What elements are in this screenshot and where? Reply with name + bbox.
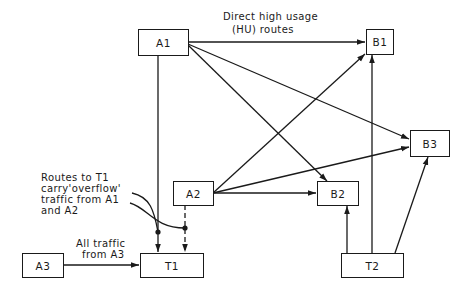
node-b3[interactable]: B3 [410,130,450,157]
node-t2-label: T2 [365,260,379,272]
hu-routes-label-line1: Direct high usage [223,11,318,24]
edge-a1-b2 [188,45,327,181]
junction-dot-a2 [182,225,187,230]
edge-t2-b3 [395,157,428,253]
node-t1[interactable]: T1 [140,253,204,278]
node-a1[interactable]: A1 [138,29,189,56]
hu-routes-label-line2: (HU) routes [232,24,294,37]
node-b1[interactable]: B1 [366,29,394,55]
node-a2[interactable]: A2 [173,181,214,206]
node-b2[interactable]: B2 [317,181,359,206]
edge-a1-b3 [188,44,409,139]
junction-dot-a1 [155,229,160,234]
overflow-label-line4: and A2 [41,205,79,218]
node-b1-label: B1 [373,36,388,48]
node-t1-label: T1 [165,260,179,272]
a3-traffic-label-line2: from A3 [82,249,124,262]
node-a1-label: A1 [156,37,171,49]
edges-layer [0,0,472,294]
node-a3-label: A3 [36,260,51,272]
node-b3-label: B3 [423,138,438,150]
node-b2-label: B2 [331,188,346,200]
node-a3[interactable]: A3 [22,253,64,278]
overflow-curve-a1 [132,193,158,232]
edge-a2-b3 [213,147,409,193]
node-a2-label: A2 [186,188,201,200]
edge-a2-b1 [213,54,365,193]
node-t2[interactable]: T2 [341,253,404,278]
